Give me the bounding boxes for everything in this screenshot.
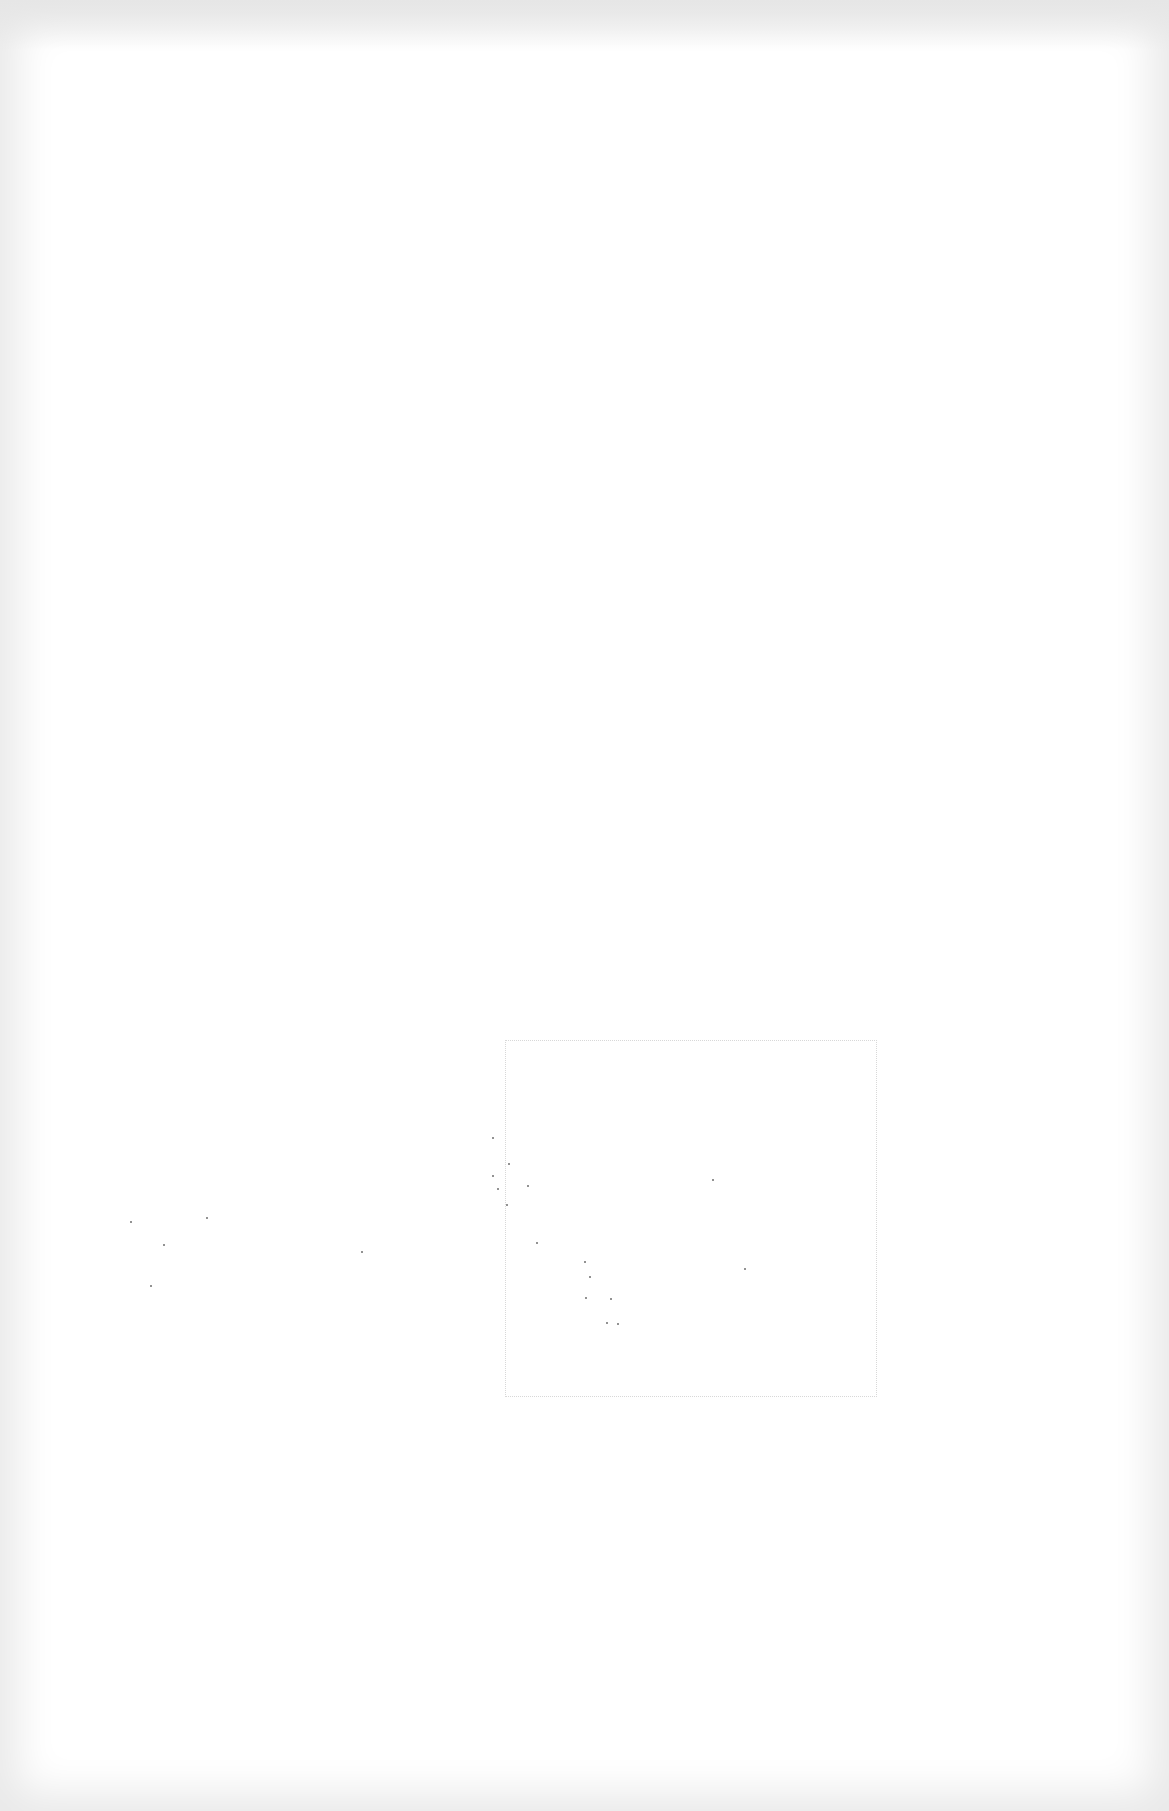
- scan-speck: [527, 1185, 529, 1187]
- scan-speck: [606, 1322, 608, 1324]
- scan-speck: [584, 1261, 586, 1263]
- scan-speck: [150, 1285, 152, 1287]
- faint-dotted-rectangle: [505, 1040, 877, 1397]
- scan-speck: [492, 1137, 494, 1139]
- blank-scanned-page: [0, 0, 1169, 1811]
- scan-speck: [497, 1188, 499, 1190]
- scan-speck: [130, 1221, 132, 1223]
- scan-speck: [206, 1217, 208, 1219]
- scan-speck: [492, 1175, 494, 1177]
- scan-speck: [536, 1242, 538, 1244]
- scan-speck: [585, 1297, 587, 1299]
- scan-edge-shading: [0, 0, 1169, 50]
- scan-speck: [589, 1276, 591, 1278]
- scan-speck: [712, 1179, 714, 1181]
- scan-speck: [508, 1163, 510, 1165]
- scan-speck: [361, 1251, 363, 1253]
- scan-speck: [744, 1268, 746, 1270]
- scan-speck: [506, 1204, 508, 1206]
- scan-speck: [610, 1298, 612, 1300]
- scan-speck: [617, 1323, 619, 1325]
- scan-speck: [163, 1244, 165, 1246]
